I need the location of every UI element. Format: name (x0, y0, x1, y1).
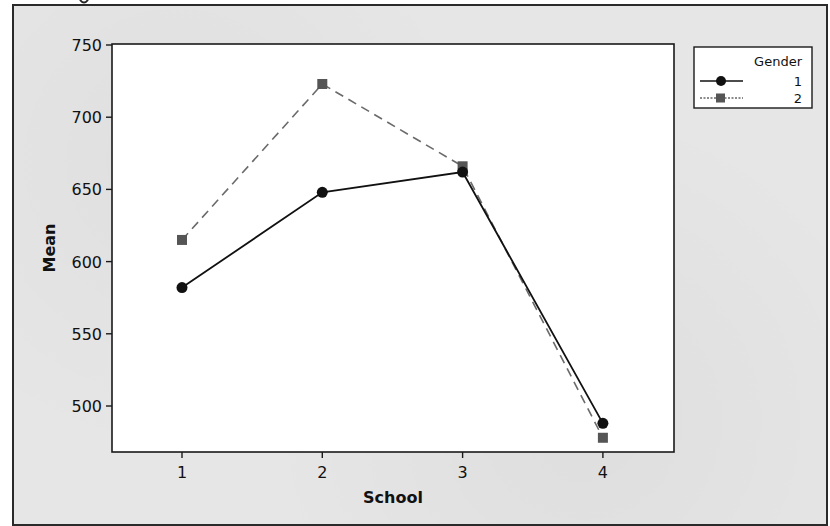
y-tick-label: 750 (71, 36, 102, 55)
circle-marker-icon (177, 282, 188, 293)
y-tick-label: 500 (71, 397, 102, 416)
y-axis: 500550600650700750 (71, 36, 112, 416)
legend: Gender 1 2 (694, 47, 812, 108)
plot-area (112, 44, 674, 452)
square-marker-icon (177, 235, 187, 245)
square-marker-icon (598, 433, 608, 443)
y-axis-title: Mean (40, 224, 59, 273)
x-tick-label: 2 (317, 463, 327, 482)
y-tick-label: 550 (71, 325, 102, 344)
y-tick-label: 600 (71, 253, 102, 272)
square-marker-icon (317, 79, 327, 89)
x-axis-title: School (363, 488, 423, 507)
circle-marker-icon (457, 167, 468, 178)
x-axis: 1234 (177, 452, 608, 482)
circle-marker-icon (317, 187, 328, 198)
cropped-title-fragment (80, 0, 88, 3)
circle-marker-icon (716, 76, 726, 86)
square-marker-icon (716, 94, 725, 103)
legend-title: Gender (754, 54, 803, 69)
interaction-plot: 500550600650700750 1234 School Mean Gend… (0, 0, 830, 526)
x-tick-label: 3 (458, 463, 468, 482)
circle-marker-icon (597, 418, 608, 429)
y-tick-label: 650 (71, 180, 102, 199)
x-tick-label: 4 (598, 463, 608, 482)
y-tick-label: 700 (71, 108, 102, 127)
x-tick-label: 1 (177, 463, 187, 482)
legend-label-2: 2 (794, 91, 802, 106)
legend-label-1: 1 (794, 74, 802, 89)
